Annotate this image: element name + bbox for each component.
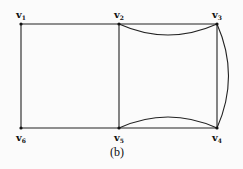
vertex-v3 <box>215 22 218 25</box>
vertex-v5 <box>117 126 120 129</box>
vertex-label-v6: v6 <box>16 133 26 144</box>
vertex-label-v5: v5 <box>114 133 124 144</box>
edge-v2-v3-curved <box>119 24 217 35</box>
vertex-label-v2: v2 <box>114 10 124 21</box>
vertex-v4 <box>215 126 218 129</box>
vertex-v6 <box>19 126 22 129</box>
edge-v3-v4-curved <box>217 24 229 128</box>
edge-v4-v5-curved <box>119 117 217 128</box>
vertex-v1 <box>19 22 22 25</box>
figure-caption: (b) <box>110 145 124 160</box>
graph-diagram: v1 v2 v3 v4 v5 v6 (b) <box>0 0 243 169</box>
vertex-label-v1: v1 <box>16 10 26 21</box>
vertex-label-v3: v3 <box>212 10 222 21</box>
vertex-v2 <box>117 22 120 25</box>
vertex-label-v4: v4 <box>212 133 222 144</box>
